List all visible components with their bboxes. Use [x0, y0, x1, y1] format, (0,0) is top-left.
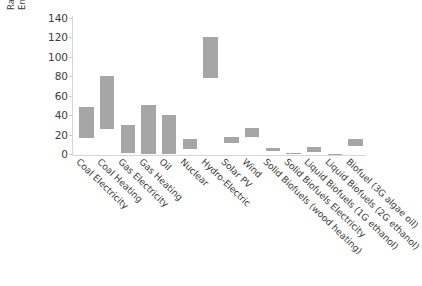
y-axis-tick-label: 140 — [48, 12, 68, 24]
bar — [203, 37, 218, 78]
y-axis-tick-label: 80 — [55, 70, 68, 82]
bar — [307, 147, 322, 152]
y-axis-tick-mark — [69, 115, 72, 116]
y-axis-title-line-2: Energy Used to Produce the Energy — [17, 0, 27, 10]
bar — [328, 154, 343, 155]
y-axis-tick-mark — [69, 135, 72, 136]
x-axis-tick-labels: Coal ElectricityCoal HeatingGas Electric… — [76, 156, 376, 286]
bar — [183, 139, 198, 149]
bar — [141, 105, 156, 154]
y-axis-tick-mark — [69, 154, 72, 155]
y-axis-tick-mark — [69, 76, 72, 77]
y-axis-tick-mark — [69, 18, 72, 19]
bar — [121, 125, 136, 153]
y-axis-tick-mark — [69, 37, 72, 38]
y-axis-tick-label: 20 — [55, 129, 68, 141]
y-axis-title-line-1: Ratio of Energy Delivered versus — [6, 0, 16, 10]
bar — [348, 139, 363, 146]
bar — [79, 107, 94, 138]
bar — [162, 115, 177, 154]
bar — [266, 148, 281, 151]
y-axis-tick-label: 0 — [61, 148, 68, 160]
y-axis-title: Ratio of Energy Delivered versus Energy … — [2, 0, 48, 200]
plot-area: 020406080100120140 — [76, 18, 366, 154]
bar — [100, 76, 115, 128]
y-axis-line — [72, 16, 73, 156]
y-axis-tick-label: 120 — [48, 31, 68, 43]
y-axis-tick-label: 40 — [55, 109, 68, 121]
y-axis-tick-label: 60 — [55, 90, 68, 102]
bar — [245, 128, 260, 137]
y-axis-tick-mark — [69, 96, 72, 97]
bar — [224, 137, 239, 144]
y-axis-tick-label: 100 — [48, 51, 68, 63]
y-axis-tick-mark — [69, 57, 72, 58]
bar — [286, 153, 301, 154]
